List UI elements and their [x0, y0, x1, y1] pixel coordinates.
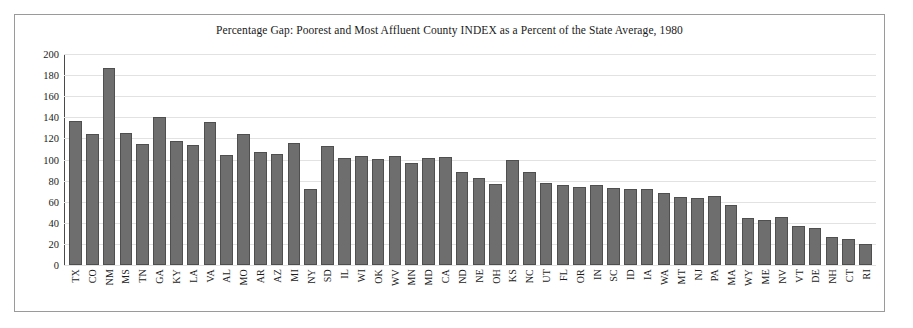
bar-column: [202, 55, 219, 265]
bar: [355, 156, 368, 265]
x-label-column: ME: [757, 267, 774, 313]
bar: [624, 189, 637, 265]
x-axis-tick-label: IA: [642, 269, 653, 280]
x-axis-tick-label: MA: [726, 269, 737, 286]
bar: [103, 68, 116, 265]
bar: [271, 154, 284, 265]
bar-column: [706, 55, 723, 265]
x-axis-tick-label: MD: [423, 269, 434, 286]
x-axis-tick-label: OH: [491, 269, 502, 284]
y-axis-tick-label: 20: [49, 238, 60, 249]
bar-column: [790, 55, 807, 265]
bar: [288, 143, 301, 265]
bar: [338, 158, 351, 265]
bar: [304, 189, 317, 265]
bar-column: [302, 55, 319, 265]
x-label-column: GA: [151, 267, 168, 313]
x-label-column: TX: [67, 267, 84, 313]
bar-column: [655, 55, 672, 265]
bar-column: [117, 55, 134, 265]
x-axis-tick-label: WY: [743, 269, 754, 286]
bar-series: [65, 55, 876, 265]
y-axis-tick-label: 40: [49, 217, 60, 228]
x-axis-tick-label: AL: [221, 269, 232, 283]
bar-column: [454, 55, 471, 265]
x-label-column: CA: [437, 267, 454, 313]
x-axis-tick-label: KS: [507, 269, 518, 282]
bar: [658, 193, 671, 265]
bar-column: [622, 55, 639, 265]
x-axis-tick-label: KY: [171, 269, 182, 284]
bar: [422, 158, 435, 265]
x-axis-tick-label: MN: [406, 269, 417, 286]
x-label-column: KY: [168, 267, 185, 313]
bar-column: [336, 55, 353, 265]
x-axis-tick-label: CA: [440, 269, 451, 283]
x-label-column: NH: [824, 267, 841, 313]
x-label-column: VT: [791, 267, 808, 313]
x-label-column: KS: [505, 267, 522, 313]
y-axis-tick-label: 0: [54, 260, 59, 271]
x-axis-tick-label: IL: [339, 269, 350, 279]
bar: [220, 155, 233, 265]
x-label-column: TN: [134, 267, 151, 313]
bar-column: [269, 55, 286, 265]
x-axis-tick-label: WI: [356, 269, 367, 282]
bar: [204, 122, 217, 265]
bar-column: [639, 55, 656, 265]
x-label-column: MN: [404, 267, 421, 313]
bar: [372, 159, 385, 265]
x-axis-tick-label: NJ: [693, 269, 704, 281]
x-axis-labels: TXCONMMSTNGAKYLAVAALMOARAZMINYSDILWIOKWV…: [65, 267, 877, 313]
bar-column: [740, 55, 757, 265]
bar-column: [487, 55, 504, 265]
x-axis-tick-label: ND: [457, 269, 468, 284]
x-axis-tick-label: RI: [861, 269, 872, 279]
x-label-column: OR: [572, 267, 589, 313]
x-label-column: WA: [656, 267, 673, 313]
bar-column: [824, 55, 841, 265]
x-axis-tick-label: MI: [289, 269, 300, 282]
x-label-column: VA: [202, 267, 219, 313]
x-label-column: RI: [858, 267, 875, 313]
bar: [187, 145, 200, 265]
x-label-column: UT: [538, 267, 555, 313]
bar: [742, 218, 755, 265]
x-axis-tick-label: IN: [592, 269, 603, 280]
x-label-column: DE: [807, 267, 824, 313]
x-label-column: OK: [370, 267, 387, 313]
bar-column: [235, 55, 252, 265]
x-axis-tick-label: CO: [87, 269, 98, 283]
bar-column: [840, 55, 857, 265]
bar-column: [504, 55, 521, 265]
bar-column: [689, 55, 706, 265]
bar: [573, 187, 586, 265]
x-axis-tick-label: NH: [827, 269, 838, 284]
x-axis-tick-label: TN: [137, 269, 148, 283]
bar: [758, 220, 771, 265]
x-label-column: NM: [101, 267, 118, 313]
x-label-column: NY: [303, 267, 320, 313]
x-label-column: AZ: [269, 267, 286, 313]
bar-column: [185, 55, 202, 265]
bar: [775, 217, 788, 265]
bar: [842, 239, 855, 265]
x-label-column: MO: [235, 267, 252, 313]
x-label-column: AL: [218, 267, 235, 313]
bar: [607, 188, 620, 265]
x-label-column: NV: [774, 267, 791, 313]
x-axis-tick-label: CT: [844, 269, 855, 282]
x-label-column: WV: [387, 267, 404, 313]
bar-column: [605, 55, 622, 265]
x-label-column: CO: [84, 267, 101, 313]
y-axis-tick-label: 80: [49, 175, 60, 186]
x-label-column: NC: [521, 267, 538, 313]
bar: [725, 205, 738, 265]
bar: [792, 226, 805, 265]
x-axis-tick-label: NE: [474, 269, 485, 283]
bar: [708, 196, 721, 265]
bar: [321, 146, 334, 265]
bar: [691, 198, 704, 265]
bar-column: [588, 55, 605, 265]
x-label-column: IN: [589, 267, 606, 313]
